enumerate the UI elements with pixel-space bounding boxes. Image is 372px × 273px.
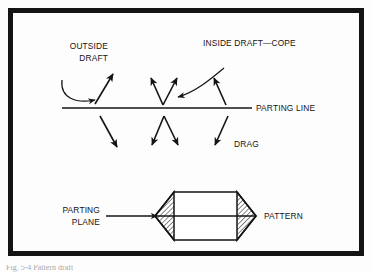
drag-label: DRAG	[234, 139, 259, 149]
parting-plane-label-line1: PARTING	[62, 205, 100, 215]
pattern-label: PATTERN	[264, 211, 303, 221]
inside-draft-arrow-left	[151, 78, 163, 105]
drag-arrow-inner-right	[164, 116, 178, 145]
diagram-canvas: OUTSIDE DRAFT INSIDE DRAFT—COPE PARTING …	[0, 0, 372, 273]
outside-draft-label-line1: OUTSIDE	[70, 41, 109, 51]
inside-draft-arrow-far-right	[214, 78, 226, 105]
inside-draft-arrow-right	[163, 78, 177, 105]
caption-strip: Fig. 5-4 Pattern draft	[0, 265, 372, 273]
figure-caption: Fig. 5-4 Pattern draft	[6, 265, 73, 272]
drag-arrow-outer-left	[100, 116, 117, 147]
drag-arrow-inner-left	[152, 116, 164, 145]
inside-draft-cope-label: INSIDE DRAFT—COPE	[203, 38, 296, 48]
figure-container: OUTSIDE DRAFT INSIDE DRAFT—COPE PARTING …	[0, 0, 372, 273]
outside-draft-label-line2: DRAFT	[79, 53, 108, 63]
inside-draft-leader-curve	[178, 68, 224, 97]
parting-line-label: PARTING LINE	[256, 103, 315, 113]
outside-draft-leader-curve	[62, 80, 95, 101]
parting-plane-label-line2: PLANE	[72, 217, 100, 227]
drag-arrow-outer-right	[215, 116, 228, 145]
outside-draft-arrow	[95, 74, 113, 104]
